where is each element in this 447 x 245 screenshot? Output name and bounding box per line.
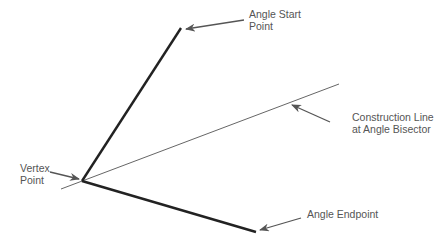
angle-start-label-line2: Point (249, 20, 301, 32)
construction-line (61, 84, 339, 189)
vertex-leader-arrow (50, 172, 79, 179)
construction-label-line2: at Angle Bisector (352, 123, 434, 135)
angle-endpoint-leader-arrow (260, 218, 301, 230)
angle-bisector-diagram: Angle Start Point Construction Line at A… (0, 0, 447, 245)
vertex-point-label: Vertex Point (20, 162, 50, 186)
vertex-label-line2: Point (20, 174, 50, 186)
angle-end-line (82, 181, 256, 232)
angle-endpoint-label-text: Angle Endpoint (307, 208, 378, 220)
angle-start-leader-arrow (186, 20, 244, 29)
construction-line-label: Construction Line at Angle Bisector (352, 111, 434, 135)
angle-start-label-line1: Angle Start (249, 8, 301, 20)
angle-endpoint-label: Angle Endpoint (307, 208, 378, 220)
angle-start-line (82, 28, 181, 181)
construction-leader-arrow (292, 105, 330, 122)
angle-start-point-label: Angle Start Point (249, 8, 301, 32)
construction-label-line1: Construction Line (352, 111, 434, 123)
vertex-label-line1: Vertex (20, 162, 50, 174)
